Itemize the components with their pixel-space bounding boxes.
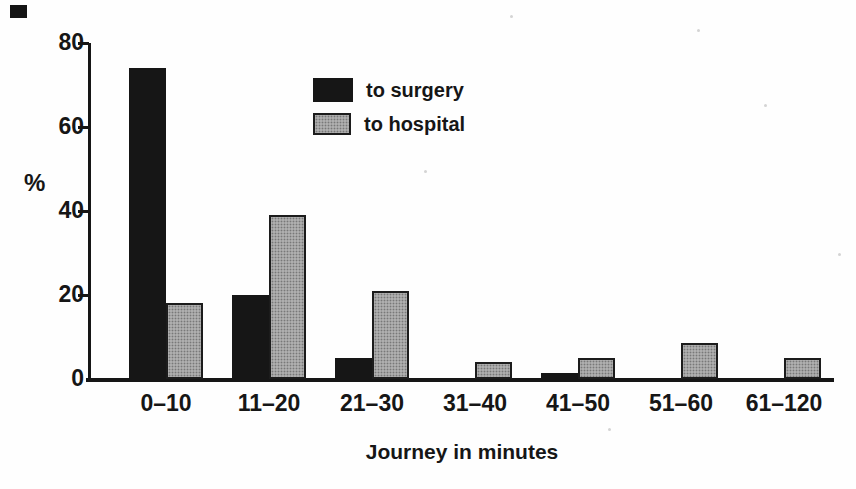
bar-to-hospital-31–40: [475, 362, 512, 379]
y-tick-label-20: 20: [38, 283, 84, 306]
bar-to-hospital-0–10: [166, 303, 203, 379]
y-tick-label-0: 0: [38, 367, 84, 390]
x-tick-label-41–50: 41–50: [546, 392, 610, 415]
legend-label-to-hospital: to hospital: [364, 114, 465, 134]
bar-to-surgery-41–50: [541, 373, 578, 379]
y-tick-label-80: 80: [38, 31, 84, 54]
x-tick-label-51–60: 51–60: [649, 392, 713, 415]
bar-to-hospital-41–50: [578, 358, 615, 379]
legend-item-to-surgery: to surgery: [313, 78, 465, 102]
scan-speckle: [608, 428, 611, 431]
x-axis-title: Journey in minutes: [366, 440, 559, 464]
x-tick-label-0–10: 0–10: [140, 392, 191, 415]
scan-speckle: [510, 15, 513, 18]
bar-to-surgery-11–20: [232, 295, 269, 379]
x-tick-label-61–120: 61–120: [746, 392, 823, 415]
bar-to-surgery-0–10: [129, 68, 166, 379]
bar-to-hospital-11–20: [269, 215, 306, 379]
bar-to-hospital-61–120: [784, 358, 821, 379]
bar-to-surgery-21–30: [335, 358, 372, 379]
x-tick-label-21–30: 21–30: [340, 392, 404, 415]
legend-label-to-surgery: to surgery: [366, 80, 464, 100]
scan-artifact-mark: [10, 5, 27, 18]
legend-item-to-hospital: to hospital: [313, 113, 465, 135]
y-axis-unit-label: %: [24, 169, 45, 197]
bar-to-hospital-21–30: [372, 291, 409, 379]
bar-to-hospital-51–60: [681, 343, 718, 379]
legend: to surgery to hospital: [313, 78, 465, 135]
scan-speckle: [838, 253, 841, 256]
y-tick-label-40: 40: [38, 199, 84, 222]
x-tick-label-31–40: 31–40: [443, 392, 507, 415]
bar-chart-figure: % 020406080 0–1011–2021–3031–4041–5051–6…: [0, 0, 856, 489]
legend-swatch-to-hospital: [313, 113, 351, 135]
legend-swatch-to-surgery: [313, 78, 353, 102]
scan-speckle: [697, 29, 700, 32]
y-tick-label-60: 60: [38, 115, 84, 138]
x-tick-label-11–20: 11–20: [238, 392, 301, 415]
